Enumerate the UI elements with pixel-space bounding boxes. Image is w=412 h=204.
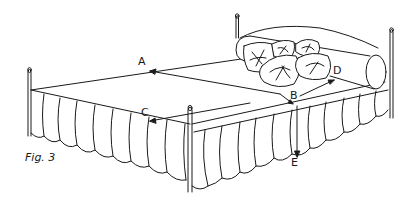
arrow-a-head — [150, 69, 156, 74]
pillows — [244, 39, 331, 86]
arrow-c-line — [150, 103, 250, 121]
figure-caption: Fig. 3 — [25, 152, 55, 163]
bed-illustration — [0, 0, 412, 204]
bed-skirt-diagram: A B C D E Fig. 3 — [0, 0, 412, 204]
left-post — [28, 68, 32, 136]
skirt-right-side — [192, 91, 388, 189]
label-a: A — [138, 56, 146, 67]
label-c: C — [141, 107, 149, 118]
label-d: D — [333, 65, 341, 76]
arrow-d-head — [328, 80, 334, 84]
label-b: B — [290, 90, 298, 101]
arrow-c-head — [150, 118, 156, 123]
front-right-post — [188, 105, 192, 192]
label-e: E — [291, 157, 298, 168]
